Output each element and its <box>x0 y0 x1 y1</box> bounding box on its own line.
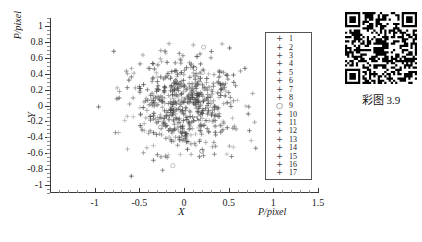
scatter-point <box>142 129 147 134</box>
scatter-point <box>157 132 162 137</box>
scatter-point <box>115 86 120 91</box>
y-axis-unit-label: P/pixel <box>12 11 23 39</box>
x-tick-label: 1.5 <box>312 198 325 208</box>
x-tick-label: 0.5 <box>222 198 235 208</box>
scatter-point <box>181 72 186 77</box>
scatter-point <box>151 76 156 81</box>
scatter-point <box>148 114 153 119</box>
scatter-point <box>178 152 183 157</box>
scatter-point <box>156 63 161 68</box>
scatter-point <box>133 86 138 91</box>
scatter-point <box>124 69 129 74</box>
scatter-point <box>96 105 101 110</box>
scatter-point <box>229 154 234 159</box>
y-tick-label: 0.2 <box>31 85 44 95</box>
scatter-point <box>178 57 183 62</box>
plus-marker-icon: + <box>274 169 285 177</box>
scatter-point <box>177 51 182 56</box>
scatter-point <box>215 80 220 85</box>
scatter-point <box>155 152 160 157</box>
scatter-point <box>127 102 132 107</box>
scatter-point <box>218 123 223 128</box>
scatter-point <box>184 106 189 111</box>
scatter-point <box>188 75 193 80</box>
legend-item-label: 1 <box>289 35 293 43</box>
scatter-point <box>129 174 134 179</box>
scatter-point <box>152 111 157 116</box>
scatter-point <box>212 72 217 77</box>
scatter-point <box>125 71 130 76</box>
y-tick-label: -1 <box>35 180 43 190</box>
scatter-point <box>159 48 164 53</box>
scatter-point <box>122 118 127 123</box>
y-tick-label: -0.6 <box>27 148 43 158</box>
scatter-point <box>190 82 195 87</box>
qr-block: 彩图 3.9 <box>343 12 419 107</box>
x-tick-label: 0 <box>182 198 187 208</box>
y-tick-label: 0.4 <box>31 69 44 79</box>
scatter-point <box>249 138 254 143</box>
y-tick-label: -0.2 <box>27 116 43 126</box>
legend-item[interactable]: +17 <box>266 169 311 177</box>
scatter-point <box>213 133 218 138</box>
scatter-point <box>187 127 192 132</box>
scatter-point <box>198 52 203 57</box>
x-tick-label: 1 <box>271 198 276 208</box>
scatter-point <box>209 55 214 60</box>
scatter-point <box>150 79 155 84</box>
scatter-point <box>166 118 171 123</box>
qr-code-icon[interactable] <box>345 12 417 84</box>
chart-legend: +1+2+3+4+5+6+7+8○9+10+11+12+13+14+15+16+… <box>265 32 312 180</box>
scatter-point <box>247 128 252 133</box>
plus-marker-icon: + <box>274 35 285 43</box>
scatter-point <box>168 76 173 81</box>
scatter-point <box>125 85 130 90</box>
scatter-point <box>227 144 232 149</box>
scatter-point <box>129 75 134 80</box>
y-tick-label: 0 <box>38 101 43 111</box>
scatter-point <box>225 100 230 105</box>
scatter-point <box>246 112 251 117</box>
scatter-point <box>141 53 146 58</box>
scatter-point <box>238 69 243 74</box>
scatter-point <box>225 125 230 130</box>
scatter-point <box>225 152 230 157</box>
scatter-point <box>205 76 210 81</box>
y-tick-label: 1 <box>38 21 43 31</box>
scatter-point <box>231 99 236 104</box>
y-tick-label: -0.4 <box>27 132 43 142</box>
scatter-point <box>211 81 216 86</box>
scatter-point <box>189 142 194 147</box>
scatter-point <box>131 114 136 119</box>
scatter-point <box>206 72 211 77</box>
scatter-point <box>125 147 130 152</box>
scatter-point <box>160 105 165 110</box>
scatter-point <box>167 41 172 46</box>
scatter-point <box>198 129 203 134</box>
scatter-point <box>140 128 145 133</box>
scatter-point <box>112 49 117 54</box>
scatter-point <box>202 45 206 49</box>
x-tick-label: -0.5 <box>131 198 147 208</box>
scatter-point <box>231 145 236 150</box>
scatter-point <box>173 61 178 66</box>
scatter-point <box>129 66 134 71</box>
scatter-point <box>187 109 192 114</box>
scatter-point <box>197 154 202 159</box>
scatter-point <box>216 75 221 80</box>
scatter-point <box>167 117 172 122</box>
x-tick-label: -1 <box>90 198 98 208</box>
scatter-point <box>202 123 207 128</box>
x-tick <box>318 188 319 193</box>
scatter-point <box>155 79 160 84</box>
scatter-point <box>145 108 150 113</box>
scatter-point <box>219 123 224 128</box>
scatter-point <box>113 130 118 135</box>
scatter-point <box>151 158 156 163</box>
scatter-point <box>155 75 160 80</box>
scatter-point <box>201 153 206 158</box>
scatter-point <box>138 62 143 67</box>
scatter-point <box>212 124 217 129</box>
plus-marker-icon: + <box>274 77 285 85</box>
scatter-point <box>176 128 181 133</box>
